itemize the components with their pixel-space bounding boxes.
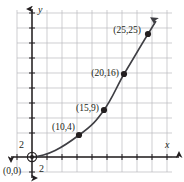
y-axis-tick-label-2: 2 <box>19 139 24 150</box>
data-point-dot <box>121 71 127 77</box>
point-label-10-4: (10,4) <box>52 122 75 133</box>
data-point-dot <box>101 107 107 113</box>
data-point-dot <box>76 132 82 138</box>
point-label-20-16: (20,16) <box>91 68 119 79</box>
point-label-15-9: (15,9) <box>76 103 99 114</box>
x-axis-label: x <box>164 139 170 150</box>
point-label-25-25: (25,25) <box>113 25 141 36</box>
quadratic-curve <box>32 21 156 157</box>
x-axis-tick-label-2: 2 <box>39 163 44 174</box>
coordinate-plane-svg: (25,25) (20,16) (15,9) (10,4) (0,0) 2 2 … <box>0 0 184 182</box>
data-point-dot <box>145 31 151 37</box>
graph-figure: (25,25) (20,16) (15,9) (10,4) (0,0) 2 2 … <box>0 0 184 182</box>
point-label-0-0: (0,0) <box>3 166 21 177</box>
y-axis-label: y <box>37 4 43 15</box>
